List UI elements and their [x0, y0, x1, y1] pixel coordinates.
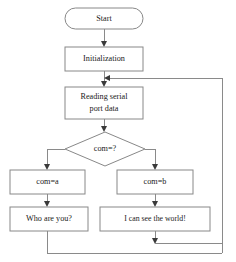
node-start[interactable]: Start: [65, 8, 143, 29]
node-initialization[interactable]: Initialization: [65, 47, 143, 71]
node-output-i-can-see-the-world-label: I can see the world!: [124, 214, 185, 223]
node-decision-com[interactable]: com=?: [65, 132, 145, 166]
flowchart-canvas: Start Initialization Reading serial port…: [0, 0, 236, 262]
edge-branch-b-to-output-b: [152, 194, 158, 207]
edge-decision-to-branch-a: [44, 149, 65, 170]
node-branch-com-a[interactable]: com=a: [10, 170, 85, 194]
node-reading-serial-port-data[interactable]: Reading serial port data: [65, 87, 143, 119]
edge-output-a-to-merge: [47, 231, 222, 253]
node-initialization-label: Initialization: [83, 54, 125, 63]
node-branch-com-a-label: com=a: [36, 177, 59, 186]
edge-output-b-to-merge: [152, 231, 222, 244]
edge-decision-to-branch-b: [145, 149, 158, 170]
flowchart-svg: Start Initialization Reading serial port…: [0, 0, 236, 262]
edge-start-to-initialization: [101, 29, 107, 47]
node-output-i-can-see-the-world[interactable]: I can see the world!: [100, 207, 210, 231]
node-reading-label-line2: port data: [90, 104, 119, 113]
node-branch-com-b-label: com=b: [144, 177, 167, 186]
node-decision-label: com=?: [94, 144, 117, 153]
node-output-who-are-you-label: Who are you?: [26, 214, 72, 223]
node-start-label: Start: [96, 14, 112, 23]
edge-branch-a-to-output-a: [44, 194, 50, 207]
node-branch-com-b[interactable]: com=b: [117, 170, 193, 194]
node-reading-label-line1: Reading serial: [80, 92, 128, 101]
node-output-who-are-you[interactable]: Who are you?: [10, 207, 88, 231]
edge-reading-to-decision: [101, 119, 107, 132]
